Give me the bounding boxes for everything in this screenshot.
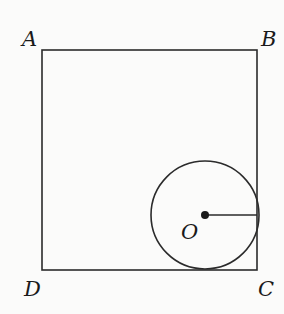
vertex-label-b: B xyxy=(260,27,276,51)
vertex-label-d: D xyxy=(23,277,41,301)
center-point-o xyxy=(201,211,209,219)
vertex-label-a: A xyxy=(20,27,37,51)
vertex-label-c: C xyxy=(258,277,274,301)
square-abcd xyxy=(42,50,257,270)
center-label-o: O xyxy=(181,220,198,244)
geometry-diagram: A B C D O xyxy=(0,0,284,314)
